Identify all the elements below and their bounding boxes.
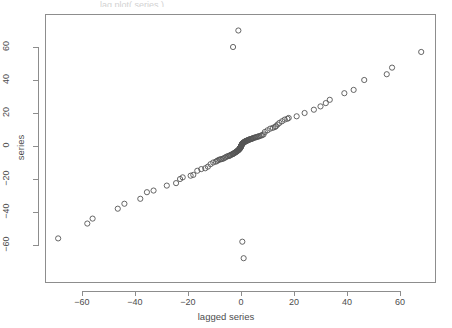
x-tick-label--20: −20 xyxy=(173,297,203,307)
y-tick--60 xyxy=(33,245,38,246)
y-axis-title: series xyxy=(15,118,26,178)
clipped-top-text: lag.plot( series ) xyxy=(100,0,350,7)
plot-frame xyxy=(45,14,436,283)
x-tick-label-0: 0 xyxy=(226,297,256,307)
y-tick--20 xyxy=(33,179,38,180)
y-tick-label--20: −20 xyxy=(1,164,11,192)
y-tick-label-20: 20 xyxy=(1,98,11,126)
y-tick-label--60: −60 xyxy=(1,230,11,258)
x-tick-40 xyxy=(347,291,348,296)
y-tick-label--40: −40 xyxy=(1,197,11,225)
y-tick-0 xyxy=(33,146,38,147)
y-tick-label-40: 40 xyxy=(1,65,11,93)
y-tick--40 xyxy=(33,212,38,213)
x-tick-0 xyxy=(241,291,242,296)
x-tick-label-40: 40 xyxy=(332,297,362,307)
x-tick--20 xyxy=(188,291,189,296)
lag-plot-screenshot: lag.plot( series ) −60−40−200204060−60−4… xyxy=(0,0,452,328)
x-tick--60 xyxy=(82,291,83,296)
x-tick-60 xyxy=(400,291,401,296)
x-tick-label--60: −60 xyxy=(67,297,97,307)
x-tick-label--40: −40 xyxy=(120,297,150,307)
y-tick-40 xyxy=(33,80,38,81)
y-axis-line xyxy=(38,47,39,246)
x-axis-title: lagged series xyxy=(0,311,452,322)
y-tick-60 xyxy=(33,47,38,48)
x-tick-label-20: 20 xyxy=(279,297,309,307)
y-tick-label-0: 0 xyxy=(1,131,11,159)
y-tick-label-60: 60 xyxy=(1,32,11,60)
x-tick-20 xyxy=(294,291,295,296)
y-tick-20 xyxy=(33,113,38,114)
x-tick-label-60: 60 xyxy=(385,297,415,307)
x-tick--40 xyxy=(135,291,136,296)
